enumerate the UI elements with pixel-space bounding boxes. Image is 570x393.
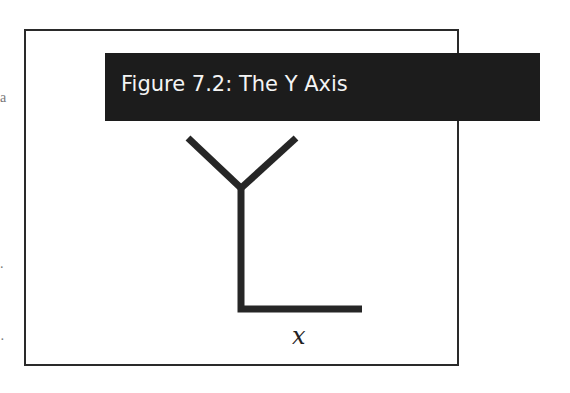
x-axis-label: x [292,322,306,350]
figure-title-banner: Figure 7.2: The Y Axis [105,53,540,121]
margin-fragment: a [0,90,6,106]
y-right-arm [240,138,296,189]
margin-fragment: · [0,332,5,348]
margin-fragment: . [0,256,4,272]
y-left-arm [188,138,242,189]
axis-l-shape [241,189,362,309]
figure-title: Figure 7.2: The Y Axis [121,72,348,96]
